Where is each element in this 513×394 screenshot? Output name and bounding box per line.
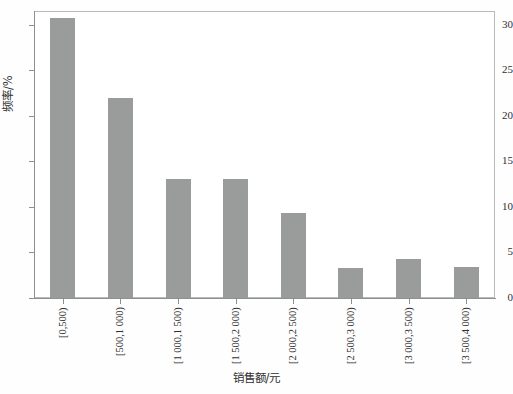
- x-axis-tick: [63, 299, 64, 304]
- bar: [281, 213, 306, 298]
- bar: [108, 98, 133, 298]
- y-axis-tick: [29, 298, 35, 299]
- x-axis-tick: [120, 299, 121, 304]
- x-axis-tick-label-text: [1 000,1 500): [172, 307, 184, 364]
- bar: [223, 179, 248, 298]
- bar: [338, 268, 363, 298]
- x-axis-tick-label: [0,500): [57, 338, 71, 350]
- x-axis-tick-label-text: [3 000,3 500): [403, 307, 415, 364]
- y-axis-title: 频率/%: [2, 112, 18, 125]
- x-axis-line: [34, 298, 496, 299]
- x-axis-tick: [293, 299, 294, 304]
- x-axis-tick: [236, 299, 237, 304]
- x-axis-tick: [351, 299, 352, 304]
- x-axis-title: 销售额/元: [0, 371, 513, 385]
- x-axis-tick-label-text: [2 000,2 500): [287, 307, 299, 364]
- bar: [50, 18, 75, 298]
- x-axis-tick: [178, 299, 179, 304]
- bars-layer: [34, 11, 495, 298]
- bar: [166, 179, 191, 298]
- bar: [396, 259, 421, 298]
- y-axis-title-text: 频率/%: [2, 75, 15, 112]
- x-axis-tick: [409, 299, 410, 304]
- x-axis-tick-label: [500,1 000): [114, 356, 128, 368]
- x-axis-tick-label-text: [2 500,3 000): [345, 307, 357, 364]
- x-axis-tick: [466, 299, 467, 304]
- bar-chart-figure: 051015202530 [0,500)[500,1 000)[1 000,1 …: [0, 0, 513, 394]
- bar: [454, 267, 479, 298]
- x-axis-tick-label-text: [3 500,4 000): [460, 307, 472, 364]
- x-axis-tick-label-text: [500,1 000): [114, 307, 126, 356]
- x-axis-tick-label-text: [1 500,2 000): [230, 307, 242, 364]
- x-axis-tick-label-text: [0,500): [57, 307, 69, 338]
